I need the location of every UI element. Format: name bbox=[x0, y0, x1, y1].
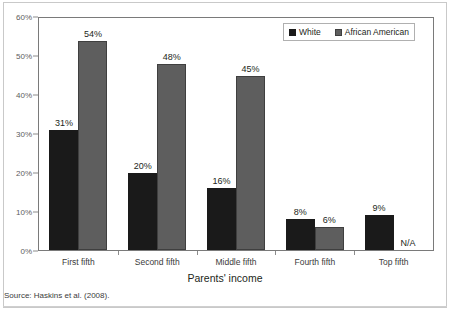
x-tick-label-first-fifth: First fifth bbox=[62, 257, 95, 267]
bar-african-american-missing: N/A bbox=[394, 18, 423, 250]
bar-african-american[interactable]: 45% bbox=[236, 76, 265, 250]
bar-group: 31% 54% bbox=[39, 18, 118, 250]
y-tick-label: 50% bbox=[0, 52, 32, 61]
legend-item-white[interactable]: White bbox=[289, 27, 321, 37]
bar-african-american[interactable]: 6% bbox=[315, 227, 344, 250]
bar-group: 20% 48% bbox=[118, 18, 197, 250]
plot-area: 31% 54% 20% 48% 16% bbox=[39, 18, 433, 250]
bar-white[interactable]: 16% bbox=[207, 188, 236, 250]
y-tick-label: 60% bbox=[0, 13, 32, 22]
bar-value-label: 45% bbox=[241, 64, 259, 74]
x-tick-mark bbox=[354, 251, 355, 255]
y-tick-label: 20% bbox=[0, 169, 32, 178]
black-square-icon bbox=[289, 29, 296, 36]
bar-value-label: 48% bbox=[163, 52, 181, 62]
bar-value-label: 9% bbox=[373, 203, 386, 213]
chart-figure: 60% 50% 40% 30% 20% 10% 0% 31% 54% bbox=[0, 0, 450, 313]
bar-value-label: 20% bbox=[134, 161, 152, 171]
chart-legend: White African American bbox=[283, 23, 415, 41]
x-tick-label-fourth-fifth: Fourth fifth bbox=[294, 257, 335, 267]
bar-value-label: 6% bbox=[323, 215, 336, 225]
legend-item-african-american[interactable]: African American bbox=[335, 27, 409, 37]
bar-white[interactable]: 20% bbox=[128, 173, 157, 250]
bar-value-label: 54% bbox=[84, 29, 102, 39]
legend-label: White bbox=[299, 27, 321, 37]
bar-value-label: 16% bbox=[212, 176, 230, 186]
bar-group: 9% N/A bbox=[354, 18, 433, 250]
bar-group: 16% 45% bbox=[197, 18, 276, 250]
bar-white[interactable]: 8% bbox=[286, 219, 315, 250]
y-tick-label: 40% bbox=[0, 90, 32, 99]
source-note: Source: Haskins et al. (2008). bbox=[4, 291, 109, 300]
bar-african-american[interactable]: 48% bbox=[157, 64, 186, 250]
x-tick-label-middle-fifth: Middle fifth bbox=[215, 257, 256, 267]
y-axis: 60% 50% 40% 30% 20% 10% 0% bbox=[0, 17, 38, 251]
x-tick-label-second-fifth: Second fifth bbox=[135, 257, 180, 267]
x-tick-mark bbox=[197, 251, 198, 255]
bar-value-label: 8% bbox=[294, 207, 307, 217]
x-axis: First fifth Second fifth Middle fifth Fo… bbox=[39, 251, 433, 271]
bar-value-label: 31% bbox=[55, 118, 73, 128]
bar-white[interactable]: 9% bbox=[365, 215, 394, 250]
y-tick-label: 0% bbox=[0, 247, 32, 256]
na-label: N/A bbox=[401, 238, 416, 248]
bar-group: 8% 6% bbox=[275, 18, 354, 250]
bar-white[interactable]: 31% bbox=[49, 130, 78, 250]
gray-square-icon bbox=[335, 29, 342, 36]
footer-divider bbox=[3, 306, 447, 307]
legend-label: African American bbox=[345, 27, 409, 37]
bar-african-american[interactable]: 54% bbox=[78, 41, 107, 250]
x-axis-title: Parents' income bbox=[0, 272, 450, 284]
x-tick-label-top-fifth: Top fifth bbox=[379, 257, 409, 267]
y-tick-label: 10% bbox=[0, 207, 32, 216]
x-tick-mark bbox=[275, 251, 276, 255]
x-tick-mark bbox=[118, 251, 119, 255]
y-tick-label: 30% bbox=[0, 130, 32, 139]
